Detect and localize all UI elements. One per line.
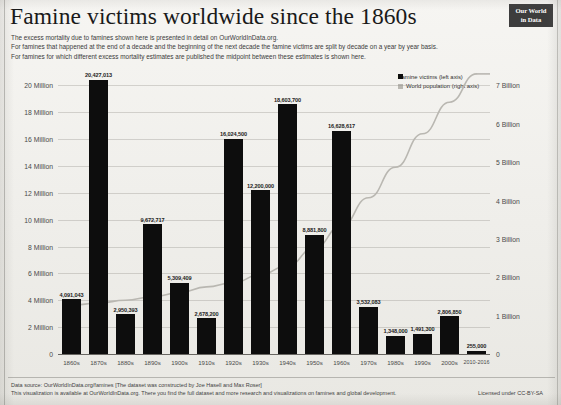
bar-value-label: 12,200,000 — [247, 183, 274, 189]
y-axis-left-tick: 8 Million — [28, 243, 53, 250]
bar-value-label: 8,881,800 — [303, 227, 327, 233]
y-axis-left-tick: 18 Million — [24, 109, 53, 116]
chart-subtitle: The excess mortality due to famines show… — [11, 33, 441, 61]
bar-value-label: 2,678,200 — [195, 311, 219, 317]
x-axis-tick: 2010-2016 — [464, 359, 490, 365]
bar-group[interactable]: 9,672,7171890s — [139, 72, 166, 354]
chart-plot-area: Famine victims (left axis) World populat… — [58, 72, 490, 354]
y-axis-left-tick: 14 Million — [24, 163, 53, 170]
bar[interactable] — [305, 235, 324, 354]
subtitle-line-3: For famines for which different excess m… — [11, 52, 441, 61]
footer-availability-line: This visualization is available at OurWo… — [11, 389, 551, 397]
bar-value-label: 20,427,013 — [85, 72, 112, 78]
y-axis-right-tick: 6 Billion — [496, 120, 520, 127]
bar-value-label: 3,532,083 — [357, 299, 381, 305]
bar[interactable] — [332, 131, 351, 354]
x-axis-tick: 1960s — [333, 359, 350, 366]
y-axis-left-tick: 6 Million — [28, 270, 53, 277]
y-axis-left-tick: 12 Million — [24, 189, 53, 196]
x-axis-tick: 1940s — [279, 359, 296, 366]
y-axis-right-tick: 7 Billion — [496, 82, 520, 89]
footer-source-line: Data source: OurWorldInData.org/famines … — [11, 381, 551, 389]
bar[interactable] — [440, 316, 459, 354]
bar-value-label: 1,348,000 — [384, 328, 408, 334]
bar-group[interactable]: 16,628,6171960s — [328, 72, 355, 354]
bar-group[interactable]: 2,806,8502000s — [436, 72, 463, 354]
subtitle-line-1: The excess mortality due to famines show… — [11, 33, 441, 42]
bar-group[interactable]: 18,603,7001940s — [274, 72, 301, 354]
y-axis-right-tick: 5 Billion — [496, 159, 520, 166]
x-axis-tick: 2000s — [441, 359, 458, 366]
bar-group[interactable]: 2,950,3931880s — [112, 72, 139, 354]
bar-value-label: 2,806,850 — [438, 309, 462, 315]
bar[interactable] — [386, 336, 405, 354]
gridline — [58, 354, 490, 355]
bar[interactable] — [251, 190, 270, 354]
y-axis-left-tick: 4 Million — [28, 297, 53, 304]
bar-group[interactable]: 3,532,0831970s — [355, 72, 382, 354]
bar[interactable] — [143, 224, 162, 354]
page-border-right — [557, 0, 558, 405]
x-axis-tick: 1910s — [198, 359, 215, 366]
bar-group[interactable]: 8,881,8001950s — [301, 72, 328, 354]
x-axis-tick: 1900s — [171, 359, 188, 366]
y-axis-left-tick: 0 — [49, 351, 53, 358]
bar-value-label: 16,628,617 — [328, 123, 355, 129]
bar[interactable] — [197, 318, 216, 354]
page-title: Famine victims worldwide since the 1860s — [10, 3, 417, 30]
bar-group[interactable]: 255,0002010-2016 — [463, 72, 490, 354]
bar-group[interactable]: 1,348,0001980s — [382, 72, 409, 354]
x-axis-tick: 1950s — [306, 359, 323, 366]
bar[interactable] — [467, 351, 486, 354]
y-axis-left-tick: 2 Million — [28, 324, 53, 331]
x-axis-tick: 1930s — [252, 359, 269, 366]
y-axis-right-tick: 0 — [496, 351, 500, 358]
bar[interactable] — [359, 307, 378, 354]
bar-group[interactable]: 2,678,2001910s — [193, 72, 220, 354]
y-axis-left-tick: 20 Million — [24, 82, 53, 89]
logo-line-2: in Data — [521, 16, 542, 24]
bar-group[interactable]: 5,309,4091900s — [166, 72, 193, 354]
our-world-in-data-logo: Our World in Data — [509, 4, 553, 27]
x-axis-tick: 1880s — [117, 359, 134, 366]
bar-group[interactable]: 1,491,3001990s — [409, 72, 436, 354]
bar[interactable] — [413, 334, 432, 354]
bar[interactable] — [116, 314, 135, 354]
y-axis-right-tick: 1 Billion — [496, 312, 520, 319]
bar-value-label: 5,309,409 — [168, 275, 192, 281]
subtitle-line-2: For famines that happened at the end of … — [11, 42, 441, 51]
y-axis-right-tick: 4 Billion — [496, 197, 520, 204]
bar-value-label: 9,672,717 — [141, 217, 165, 223]
bar-group[interactable]: 12,200,0001930s — [247, 72, 274, 354]
chart-footer: Data source: OurWorldInData.org/famines … — [11, 381, 551, 398]
x-axis-tick: 1890s — [144, 359, 161, 366]
bar[interactable] — [278, 104, 297, 354]
bar[interactable] — [89, 80, 108, 354]
bar-value-label: 255,000 — [467, 343, 487, 349]
y-axis-right-tick: 3 Billion — [496, 235, 520, 242]
bar-value-label: 1,491,300 — [411, 326, 435, 332]
footer-divider — [8, 377, 555, 378]
bar-value-label: 18,603,700 — [274, 97, 301, 103]
x-axis-tick: 1920s — [225, 359, 242, 366]
bar[interactable] — [224, 139, 243, 354]
x-axis-tick: 1860s — [63, 359, 80, 366]
x-axis-tick: 1990s — [414, 359, 431, 366]
footer-license: Licensed under CC-BY-SA — [478, 389, 543, 397]
y-axis-right-tick: 2 Billion — [496, 274, 520, 281]
footer-availability-text: This visualization is available at OurWo… — [11, 390, 396, 396]
bar-group[interactable]: 20,427,0131870s — [85, 72, 112, 354]
page-border-left — [4, 0, 5, 405]
bar[interactable] — [170, 283, 189, 354]
logo-line-1: Our World — [515, 7, 546, 15]
bar-value-label: 4,091,043 — [60, 292, 84, 298]
bar-value-label: 16,024,500 — [220, 131, 247, 137]
bar[interactable] — [62, 299, 81, 354]
bar-group[interactable]: 4,091,0431860s — [58, 72, 85, 354]
bar-group[interactable]: 16,024,5001920s — [220, 72, 247, 354]
bar-value-label: 2,950,393 — [114, 307, 138, 313]
x-axis-tick: 1980s — [387, 359, 404, 366]
chart-page: Famine victims worldwide since the 1860s… — [0, 0, 561, 405]
y-axis-left-tick: 16 Million — [24, 136, 53, 143]
bar-series: 4,091,0431860s20,427,0131870s2,950,39318… — [58, 72, 490, 354]
